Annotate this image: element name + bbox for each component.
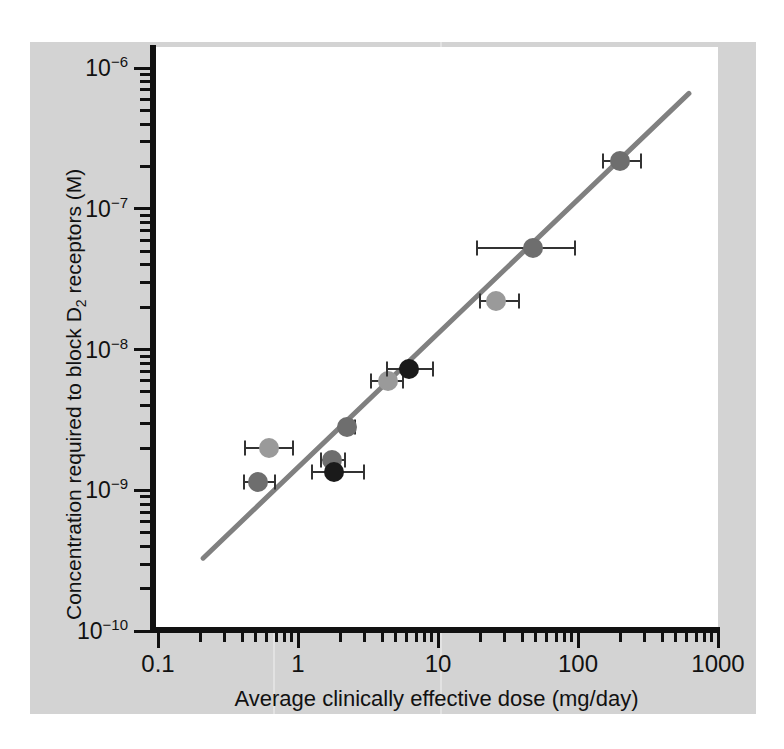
figure-scatter-plot: 10−610−710−810−910−100.11101001000 Conce…	[0, 0, 784, 749]
regression-trendline	[203, 93, 689, 558]
trendline-layer	[0, 0, 784, 749]
